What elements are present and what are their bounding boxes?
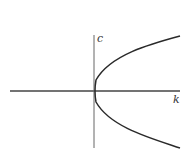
- diagram-canvas: c k: [0, 0, 191, 159]
- parabola-curve: [95, 36, 180, 148]
- horizontal-axis-label: k: [173, 93, 180, 106]
- vertical-axis-label: c: [97, 32, 103, 45]
